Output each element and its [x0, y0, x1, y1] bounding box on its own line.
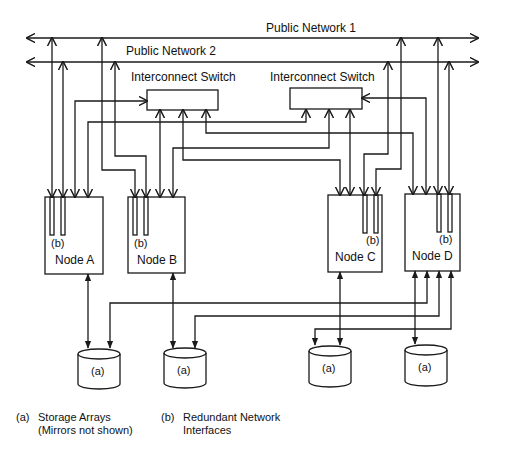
- legend-key-a: (a): [16, 411, 38, 424]
- link-node-d-storage-3: [315, 271, 451, 345]
- node-a-nic-2: [61, 197, 65, 235]
- node-b-nic-1: [133, 197, 137, 235]
- link-node-d-storage-1: [110, 271, 427, 348]
- public-network-1-label: Public Network 1: [266, 22, 356, 34]
- link-sw2-node-b: [173, 110, 329, 197]
- storage-1-label: (a): [91, 366, 104, 377]
- node-b-nic-2: [144, 197, 148, 235]
- legend-storage-line1: Storage Arrays: [38, 411, 111, 423]
- node-a-label: Node A: [55, 254, 94, 266]
- node-d-nic-label: (b): [439, 234, 452, 245]
- link-sw2-node-d: [362, 98, 426, 194]
- node-c-nic-2: [374, 195, 378, 233]
- legend-key-b: (b): [161, 411, 183, 424]
- node-c-nic-label: (b): [366, 235, 379, 246]
- link-sw1-node-a: [75, 101, 147, 197]
- node-b-nic-label: (b): [134, 238, 147, 249]
- link-sw2-node-a: [88, 110, 306, 197]
- node-c-nic-1: [363, 195, 367, 233]
- node-a-nic-label: (b): [51, 238, 64, 249]
- node-c-label: Node C: [335, 251, 376, 263]
- node-a-nic-1: [50, 197, 54, 235]
- node-d-label: Node D: [412, 250, 453, 262]
- public-network-2-label: Public Network 2: [126, 45, 216, 57]
- storage-2-label: (a): [177, 365, 190, 376]
- node-d-nic-2: [448, 194, 452, 232]
- switch-2-box: [290, 88, 362, 109]
- legend-storage-line2: (Mirrors not shown): [38, 424, 133, 436]
- legend-redundant-line2: Interfaces: [183, 424, 231, 436]
- cluster-diagram-canvas: [0, 0, 507, 454]
- switch-1-label: Interconnect Switch: [131, 71, 236, 83]
- switch-2-label: Interconnect Switch: [270, 71, 375, 83]
- storage-3-label: (a): [322, 363, 335, 374]
- switch-1-box: [147, 90, 218, 110]
- legend-storage-arrays: (a)Storage Arrays(Mirrors not shown): [16, 411, 133, 437]
- storage-4-label: (a): [418, 362, 431, 373]
- node-b-label: Node B: [137, 254, 177, 266]
- link-node-d-storage-2: [195, 271, 439, 348]
- legend-redundant-interfaces: (b)Redundant NetworkInterfaces: [161, 411, 280, 437]
- node-d-nic-1: [437, 194, 441, 232]
- legend-redundant-line1: Redundant Network: [183, 411, 280, 423]
